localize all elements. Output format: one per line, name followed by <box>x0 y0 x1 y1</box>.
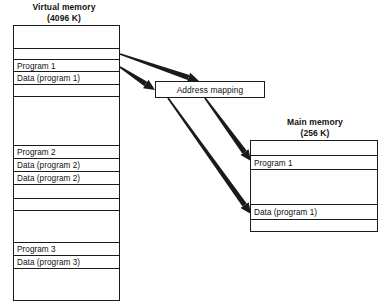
arrow-mapping-to-main-program1 <box>204 97 251 161</box>
address-mapping-box: Address mapping <box>155 81 265 98</box>
arrow-program1-to-mapping <box>120 53 199 82</box>
arrow-data-program1-to-mapping-shaft <box>120 66 148 86</box>
arrow-mapping-to-main-data-shaft <box>167 97 246 206</box>
diagram-canvas: Virtual memory (4096 K) Program 1Data (p… <box>0 0 384 306</box>
arrow-mapping-to-main-program1-shaft <box>204 97 246 153</box>
arrow-mapping-to-main-data <box>167 97 251 214</box>
arrow-layer <box>0 0 384 306</box>
address-mapping-label: Address mapping <box>156 85 264 95</box>
arrow-program1-to-mapping-shaft <box>120 53 190 80</box>
arrow-data-program1-to-mapping <box>120 66 155 90</box>
